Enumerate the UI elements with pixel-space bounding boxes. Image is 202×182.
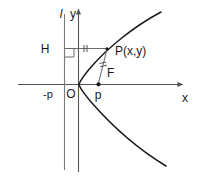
label-directrix-x: -p — [43, 88, 53, 100]
label-point-p: P(x,y) — [115, 44, 146, 58]
focus-point-marker — [96, 82, 100, 86]
parabola-curve — [79, 12, 166, 166]
y-axis-label: y — [70, 7, 76, 21]
parabola-svg: l y x H P(x,y) F O p -p — [0, 0, 202, 182]
label-origin: O — [66, 87, 75, 101]
label-focus: F — [107, 66, 114, 80]
parabola-figure: l y x H P(x,y) F O p -p — [0, 0, 202, 182]
label-h: H — [41, 42, 50, 56]
x-axis-label: x — [182, 91, 188, 105]
label-focus-x: p — [95, 88, 102, 102]
point-p-marker — [105, 47, 108, 50]
right-angle-marker — [65, 49, 74, 58]
directrix-label: l — [60, 7, 63, 21]
